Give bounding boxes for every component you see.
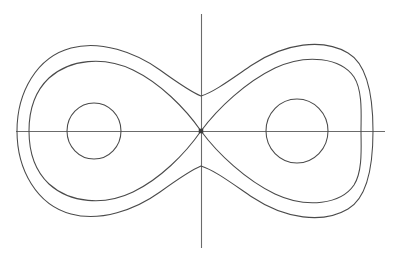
phase-portrait-figure	[0, 0, 399, 259]
phase-portrait-canvas	[0, 0, 399, 259]
saddle-point-marker	[199, 129, 204, 134]
